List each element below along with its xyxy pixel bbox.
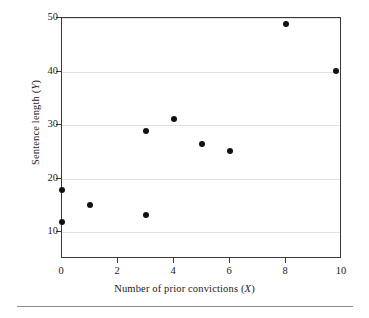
x-tick-label-8: 8 — [270, 265, 300, 277]
x-axis-title-prefix: Number of prior convictions ( — [114, 283, 244, 294]
datapoint — [143, 212, 149, 218]
x-tick-mark-6 — [229, 258, 230, 263]
y-axis-variable: Y — [30, 84, 41, 90]
x-tick-label-6: 6 — [214, 265, 244, 277]
x-tick-label-0: 0 — [46, 265, 76, 277]
plot-area — [61, 17, 341, 258]
x-axis-title-suffix: ) — [251, 283, 255, 294]
datapoint — [59, 219, 65, 225]
datapoint — [283, 21, 289, 27]
scatter-plot-figure: 1020304050 0246810 Number of prior convi… — [0, 0, 369, 318]
gridline-y-20 — [62, 179, 340, 180]
gridline-y-50 — [62, 18, 340, 19]
x-tick-mark-4 — [173, 258, 174, 263]
gridline-y-10 — [62, 232, 340, 233]
gridline-y-30 — [62, 125, 340, 126]
bottom-divider-rule — [17, 306, 353, 307]
x-tick-label-10: 10 — [326, 265, 356, 277]
y-tick-label-50: 50 — [18, 12, 58, 23]
y-axis-title-prefix: Sentence length ( — [30, 90, 41, 165]
datapoint — [143, 128, 149, 134]
datapoint — [227, 148, 233, 154]
x-tick-mark-2 — [117, 258, 118, 263]
gridline-y-40 — [62, 72, 340, 73]
datapoint — [199, 141, 205, 147]
x-tick-label-2: 2 — [102, 265, 132, 277]
datapoint — [59, 187, 65, 193]
datapoint — [333, 68, 339, 74]
datapoint — [171, 116, 177, 122]
datapoint — [87, 202, 93, 208]
y-axis-title: Sentence length (Y) — [30, 23, 41, 223]
x-tick-label-4: 4 — [158, 265, 188, 277]
x-tick-mark-8 — [285, 258, 286, 263]
y-axis-title-suffix: ) — [30, 80, 41, 84]
y-tick-label-10: 10 — [18, 226, 58, 237]
x-axis-title: Number of prior convictions (X) — [0, 283, 369, 294]
